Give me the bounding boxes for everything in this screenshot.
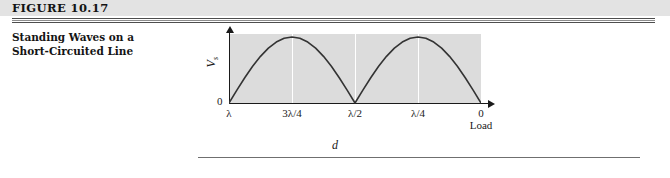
distance-dimension-rule bbox=[198, 157, 640, 158]
rule-line-bottom bbox=[12, 22, 655, 23]
rule-line-middle bbox=[12, 20, 655, 21]
rule-line-top bbox=[12, 18, 655, 19]
gridline bbox=[481, 34, 482, 103]
x-axis-tick-label: λ/2 bbox=[348, 107, 362, 119]
load-label: Load bbox=[470, 119, 493, 131]
x-axis-tick-label: λ bbox=[226, 107, 231, 119]
x-axis-tick-label: 0 bbox=[478, 107, 484, 119]
distance-dimension-label: d bbox=[0, 138, 670, 153]
x-axis-tick-label: 3λ/4 bbox=[282, 107, 301, 119]
header-double-rule bbox=[12, 18, 655, 23]
y-axis-arrowhead-icon bbox=[226, 26, 234, 33]
y-axis-label-subscript: s bbox=[211, 57, 220, 60]
x-axis-arrowhead-icon bbox=[488, 100, 495, 108]
y-axis-label: Vs bbox=[204, 42, 220, 82]
y-axis-label-symbol: V bbox=[204, 60, 218, 67]
y-origin-label: 0 bbox=[217, 95, 223, 107]
figure-caption: Standing Waves on a Short-Circuited Line bbox=[12, 30, 187, 58]
curve-path bbox=[229, 37, 481, 103]
figure-number: FIGURE 10.17 bbox=[12, 1, 109, 15]
figure-caption-line-2: Short-Circuited Line bbox=[12, 44, 187, 58]
standing-wave-plot: Vs 0 λ3λ/4λ/2λ/40 Load bbox=[198, 30, 498, 135]
figure-caption-line-1: Standing Waves on a bbox=[12, 30, 187, 44]
standing-wave-curve bbox=[229, 34, 481, 104]
x-axis-tick-label: λ/4 bbox=[411, 107, 425, 119]
